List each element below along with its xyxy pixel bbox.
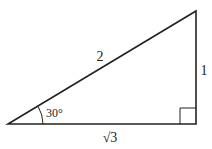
horizontal-leg-label: √3 <box>103 130 118 145</box>
vertical-leg-label: 1 <box>201 63 208 78</box>
triangle-diagram: 2 1 √3 30° <box>0 0 212 149</box>
angle-label: 30° <box>46 106 63 120</box>
triangle <box>8 11 196 124</box>
right-angle-marker <box>180 108 196 124</box>
hypotenuse-label: 2 <box>97 49 104 64</box>
angle-arc <box>38 107 43 124</box>
